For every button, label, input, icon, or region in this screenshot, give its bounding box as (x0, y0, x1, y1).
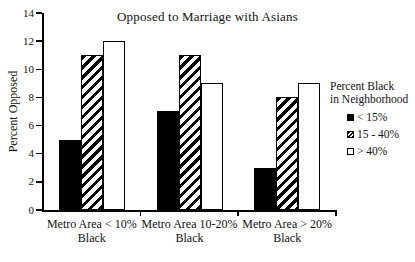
legend-item: 15 - 40% (347, 128, 408, 140)
y-tick (36, 12, 42, 14)
y-tick (36, 209, 42, 211)
x-tick (237, 212, 239, 216)
y-tick (36, 69, 42, 71)
y-tick-label: 12 (8, 36, 34, 47)
y-tick-label: 6 (8, 120, 34, 131)
x-tick (140, 212, 142, 216)
legend-item: > 40% (347, 145, 408, 157)
bar-series-1-group-2 (157, 111, 179, 210)
y-tick-label: 4 (8, 148, 34, 159)
y-tick-label: 14 (8, 8, 34, 19)
x-tick (335, 212, 337, 216)
legend-item-label: < 15% (357, 111, 387, 123)
x-axis (42, 210, 337, 212)
bar-chart: Opposed to Marriage with Asians Percent … (0, 0, 415, 262)
legend-swatch-open-icon (347, 148, 354, 155)
legend-swatch-hatched-icon (347, 131, 354, 138)
legend-title: Percent Black in Neighborhood (330, 80, 408, 106)
legend-title-line2: in Neighborhood (330, 93, 408, 106)
y-tick (36, 97, 42, 99)
category-label: Metro Area > 20% Black (222, 217, 352, 245)
bar-series-2-group-2 (179, 55, 201, 210)
legend-items: < 15%15 - 40%> 40% (330, 111, 408, 157)
bar-series-1-group-1 (59, 140, 81, 210)
bar-series-1-group-3 (254, 168, 276, 210)
legend-swatch-solid-icon (347, 114, 354, 121)
legend-title-line1: Percent Black (330, 80, 408, 93)
legend-item-label: > 40% (357, 145, 387, 157)
bar-series-3-group-1 (103, 41, 125, 210)
bar-series-3-group-3 (298, 83, 320, 210)
y-axis (42, 13, 44, 210)
legend-item: < 15% (347, 111, 408, 123)
legend: Percent Black in Neighborhood < 15%15 - … (330, 80, 408, 157)
y-tick-label: 0 (8, 205, 34, 216)
y-tick (36, 40, 42, 42)
legend-item-label: 15 - 40% (357, 128, 399, 140)
y-tick-label: 8 (8, 92, 34, 103)
bar-series-2-group-1 (81, 55, 103, 210)
y-tick-label: 2 (8, 176, 34, 187)
y-tick (36, 181, 42, 183)
y-tick-label: 10 (8, 64, 34, 75)
y-tick (36, 153, 42, 155)
chart-title: Opposed to Marriage with Asians (0, 9, 415, 25)
y-tick (36, 125, 42, 127)
bar-series-3-group-2 (201, 83, 223, 210)
bar-series-2-group-3 (276, 97, 298, 210)
